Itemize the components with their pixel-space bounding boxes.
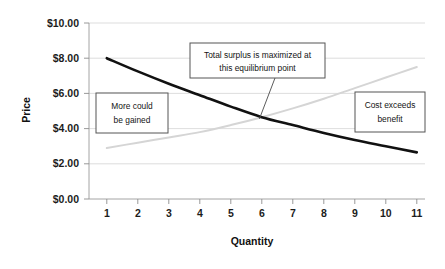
xtick-label-4: 4 [197, 207, 203, 219]
ytick-label-6: $6.00 [53, 87, 79, 99]
equilibrium-leader-line [259, 78, 275, 119]
annotation-total-surplus: Total surplus is maximized at this equil… [190, 43, 325, 78]
ytick-label-10: $10.00 [47, 17, 79, 29]
annotation-right-line-1: Cost exceeds [365, 100, 416, 110]
xtick-label-3: 3 [166, 207, 172, 219]
xtick-label-2: 2 [135, 207, 141, 219]
annotation-box-left [96, 93, 168, 133]
xtick-label-8: 8 [321, 207, 327, 219]
annotation-center-line-2: this equilibrium point [219, 63, 296, 73]
annotation-left-line-1: More could [111, 101, 153, 111]
xtick-label-6: 6 [259, 207, 265, 219]
x-axis-title: Quantity [231, 235, 274, 247]
annotation-cost-exceeds-benefit: Cost exceeds benefit [355, 92, 425, 132]
economics-surplus-chart: $10.00 $8.00 $6.00 $4.00 $2.00 $0.00 1 2… [0, 0, 445, 269]
ytick-label-4: $4.00 [53, 122, 79, 134]
xtick-label-10: 10 [380, 207, 392, 219]
ytick-label-2: $2.00 [53, 157, 79, 169]
annotation-box-right [355, 92, 425, 132]
annotation-left-line-2: be gained [114, 115, 151, 125]
x-tickmarks [107, 199, 417, 204]
y-tickmarks [84, 23, 89, 199]
xtick-label-1: 1 [104, 207, 110, 219]
xtick-label-5: 5 [228, 207, 234, 219]
y-axis-title: Price [20, 97, 32, 123]
annotation-more-could-be-gained: More could be gained [96, 93, 168, 133]
xtick-label-7: 7 [290, 207, 296, 219]
ytick-label-0: $0.00 [53, 193, 79, 205]
xtick-label-9: 9 [352, 207, 358, 219]
chart-canvas: $10.00 $8.00 $6.00 $4.00 $2.00 $0.00 1 2… [0, 0, 445, 269]
annotation-right-line-2: benefit [377, 114, 403, 124]
ytick-label-8: $8.00 [53, 52, 79, 64]
annotation-center-line-1: Total surplus is maximized at [204, 50, 312, 60]
xtick-label-11: 11 [411, 207, 422, 219]
